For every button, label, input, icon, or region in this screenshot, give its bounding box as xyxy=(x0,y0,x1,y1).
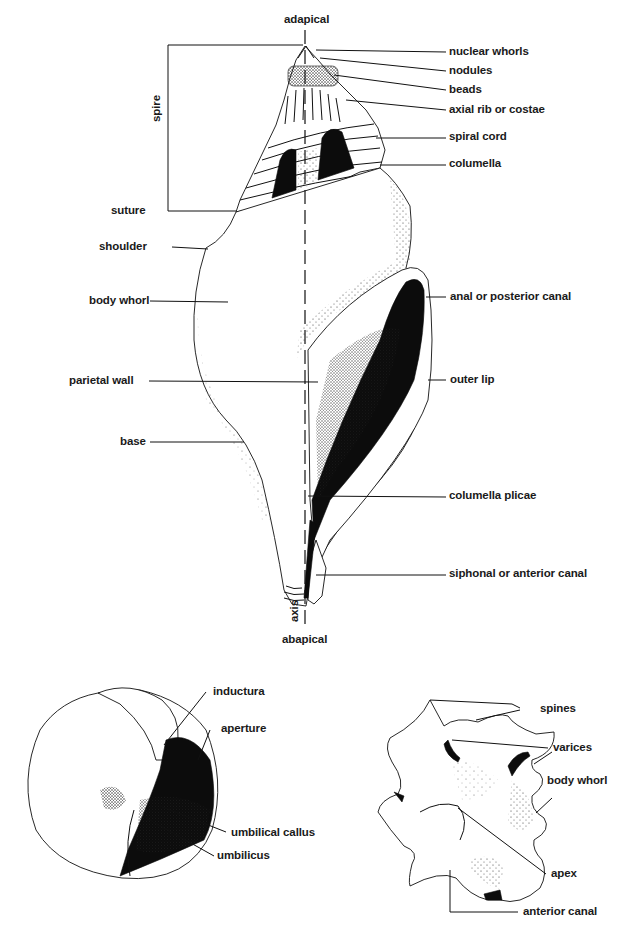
label-columella: columella xyxy=(449,158,501,170)
shell-morphology-diagram: adapical abapical axis spire nuclear who… xyxy=(0,0,617,942)
label-nodules: nodules xyxy=(449,65,492,77)
label-nuclear-whorls: nuclear whorls xyxy=(449,46,529,58)
label-apex: apex xyxy=(551,868,577,880)
label-columella-plicae: columella plicae xyxy=(449,490,536,502)
label-umbilicus: umbilicus xyxy=(217,850,270,862)
label-axis: axis xyxy=(289,600,301,622)
label-spire: spire xyxy=(151,95,163,122)
label-outer-lip: outer lip xyxy=(450,374,494,386)
umbilical-view-drawing xyxy=(28,688,218,879)
label-aperture: aperture xyxy=(221,723,266,735)
label-beads: beads xyxy=(449,84,482,96)
main-shell xyxy=(194,46,432,606)
label-siphonal-canal: siphonal or anterior canal xyxy=(449,568,587,580)
spiny-shell-drawing xyxy=(378,700,554,902)
label-spines: spines xyxy=(540,703,576,715)
label-anal-canal: anal or posterior canal xyxy=(450,291,571,303)
label-suture: suture xyxy=(111,205,146,217)
label-parietal-wall: parietal wall xyxy=(69,375,134,387)
label-shoulder: shoulder xyxy=(99,241,147,253)
label-anterior-canal: anterior canal xyxy=(523,906,597,918)
label-axial-rib: axial rib or costae xyxy=(449,104,545,116)
label-body-whorl: body whorl xyxy=(89,295,149,307)
label-adapical: adapical xyxy=(284,14,329,26)
label-inductura: inductura xyxy=(213,686,265,698)
label-body-whorl-spiny: body whorl xyxy=(547,775,607,787)
label-spiral-cord: spiral cord xyxy=(449,131,507,143)
label-base: base xyxy=(120,436,146,448)
label-abapical: abapical xyxy=(282,634,327,646)
diagram-drawing xyxy=(0,0,617,942)
label-varices: varices xyxy=(553,742,592,754)
label-umbilical-callus: umbilical callus xyxy=(231,827,315,839)
